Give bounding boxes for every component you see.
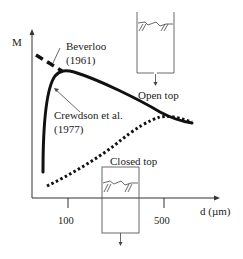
closed-top-container-icon xyxy=(102,167,139,246)
beverloo-year-label: (1961) xyxy=(66,54,95,66)
y-axis-arrow-icon xyxy=(30,29,35,35)
beverloo-leader-line xyxy=(53,48,60,63)
beverloo-dashed-curve xyxy=(36,55,62,71)
crewdson-arrow-icon xyxy=(54,88,59,92)
x-tick-label-500: 500 xyxy=(154,215,170,227)
x-axis-label: d (µm) xyxy=(200,205,230,217)
closed-top-label: Closed top xyxy=(110,155,157,167)
mass-flow-vs-particle-size-diagram xyxy=(0,0,243,259)
beverloo-label: Beverloo xyxy=(66,40,106,52)
x-tick-label-100: 100 xyxy=(58,215,74,227)
x-axis-arrow-icon xyxy=(214,196,220,201)
crewdson-year-label: (1977) xyxy=(54,123,83,135)
crewdson-label: Crewdson et al. xyxy=(54,109,123,121)
y-axis-label: M xyxy=(12,36,22,48)
open-top-container-icon xyxy=(137,12,174,86)
open-top-label: Open top xyxy=(138,89,179,101)
